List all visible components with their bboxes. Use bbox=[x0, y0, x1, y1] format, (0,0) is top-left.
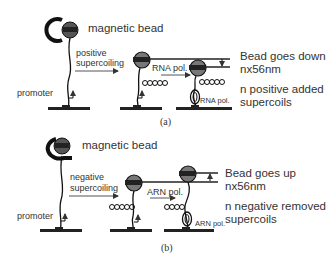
bead-label: magnetic bead bbox=[82, 139, 157, 152]
result-text: supercoils bbox=[240, 96, 292, 109]
dna-strand bbox=[60, 156, 63, 230]
result-text: Bead goes down bbox=[240, 50, 326, 63]
polymerase-label: ARN pol. bbox=[195, 220, 225, 228]
result-text: nx56nm bbox=[225, 180, 266, 193]
polymerase-label: RNA pol. bbox=[200, 97, 230, 105]
supercoiling-diagram bbox=[0, 0, 334, 262]
promoter-arrow-icon bbox=[69, 91, 73, 98]
dna-strand bbox=[132, 191, 134, 230]
supercoil-loops-icon bbox=[165, 205, 185, 210]
magnetic-bead-icon bbox=[179, 166, 196, 182]
magnetic-bead-icon bbox=[133, 52, 150, 68]
magnetic-bead-icon bbox=[189, 60, 206, 76]
rna-polymerase-icon bbox=[191, 90, 200, 104]
magnetic-bead-icon bbox=[125, 175, 142, 191]
supercoil-loops-icon bbox=[200, 80, 225, 85]
dna-strand bbox=[137, 68, 140, 108]
polymerase-label: RNA pol. bbox=[152, 64, 188, 74]
promoter-arrow-icon bbox=[61, 214, 65, 221]
panel-caption: (a) bbox=[160, 116, 171, 127]
result-text: nx56nm bbox=[240, 63, 281, 76]
supercoil-loops-icon bbox=[143, 81, 168, 86]
promoter-label: promoter bbox=[17, 212, 53, 222]
result-text: n positive added bbox=[240, 83, 324, 96]
surface bbox=[176, 107, 232, 110]
arrow-label: negative bbox=[70, 173, 104, 183]
arrow-label: supercoiling bbox=[70, 184, 118, 194]
magnetic-bead-icon bbox=[48, 138, 72, 159]
supercoil-loops-icon bbox=[110, 205, 135, 210]
panel-caption: (b) bbox=[161, 242, 173, 253]
polymerase-label: ARN pol. bbox=[147, 188, 183, 198]
result-text: Bead goes up bbox=[225, 167, 296, 180]
magnetic-bead-icon bbox=[46, 19, 78, 41]
promoter-arrow-icon bbox=[134, 215, 138, 222]
result-text: n negative removed bbox=[225, 200, 326, 213]
bead-label: magnetic bead bbox=[88, 22, 163, 35]
arrow-label: supercoiling bbox=[76, 59, 124, 69]
panel-b bbox=[40, 138, 218, 232]
promoter-label: promoter bbox=[17, 89, 53, 99]
result-text: supercoils bbox=[225, 213, 277, 226]
